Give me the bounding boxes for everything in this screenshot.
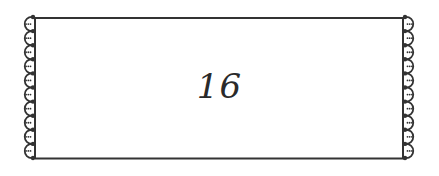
scalloped-label: 16 bbox=[0, 0, 439, 176]
scallop-dot bbox=[25, 150, 27, 152]
scallop-dot bbox=[407, 122, 409, 124]
junction-dot bbox=[403, 57, 407, 61]
scallop-dot bbox=[407, 150, 409, 152]
scallop-dot bbox=[407, 136, 409, 138]
scallop-dot bbox=[27, 108, 29, 110]
junction-dot bbox=[31, 128, 35, 132]
junction-dot bbox=[403, 114, 407, 118]
junction-dot bbox=[403, 29, 407, 33]
scallop-dot bbox=[27, 51, 29, 53]
scallop-dot bbox=[409, 136, 411, 138]
scallop-dot bbox=[30, 122, 32, 124]
scallop-dot bbox=[409, 51, 411, 53]
junction-dot bbox=[403, 43, 407, 47]
scallop-dot bbox=[25, 122, 27, 124]
junction-dot bbox=[31, 29, 35, 33]
scallop-dot bbox=[411, 150, 413, 152]
scallop-dot bbox=[411, 108, 413, 110]
junction-dot bbox=[403, 156, 407, 160]
scallop-dot bbox=[411, 122, 413, 124]
scallop-dot bbox=[25, 37, 27, 39]
junction-dot bbox=[403, 142, 407, 146]
junction-dot bbox=[403, 128, 407, 132]
scallop-dot bbox=[27, 23, 29, 25]
scallop-dot bbox=[30, 108, 32, 110]
scallop-dot bbox=[27, 136, 29, 138]
junction-dot bbox=[31, 57, 35, 61]
scallop-dot bbox=[30, 37, 32, 39]
scallop-dot bbox=[25, 51, 27, 53]
label-number: 16 bbox=[0, 66, 439, 106]
scallop-dot bbox=[30, 51, 32, 53]
junction-dot bbox=[31, 114, 35, 118]
scallop-dot bbox=[409, 23, 411, 25]
scallop-dot bbox=[30, 150, 32, 152]
scallop-dot bbox=[409, 150, 411, 152]
scallop-dot bbox=[407, 51, 409, 53]
junction-dot bbox=[31, 156, 35, 160]
scallop-dot bbox=[25, 23, 27, 25]
scallop-dot bbox=[25, 108, 27, 110]
junction-dot bbox=[31, 15, 35, 19]
junction-dot bbox=[31, 142, 35, 146]
scallop-dot bbox=[407, 37, 409, 39]
scallop-dot bbox=[411, 136, 413, 138]
scallop-dot bbox=[409, 108, 411, 110]
junction-dot bbox=[403, 15, 407, 19]
scallop-dot bbox=[409, 122, 411, 124]
scallop-dot bbox=[407, 108, 409, 110]
scallop-dot bbox=[409, 37, 411, 39]
scallop-dot bbox=[411, 51, 413, 53]
scallop-dot bbox=[27, 37, 29, 39]
scallop-dot bbox=[30, 23, 32, 25]
scallop-dot bbox=[411, 37, 413, 39]
scallop-dot bbox=[30, 136, 32, 138]
scallop-dot bbox=[411, 23, 413, 25]
scallop-dot bbox=[407, 23, 409, 25]
junction-dot bbox=[31, 43, 35, 47]
scallop-dot bbox=[27, 122, 29, 124]
scallop-dot bbox=[25, 136, 27, 138]
scallop-dot bbox=[27, 150, 29, 152]
